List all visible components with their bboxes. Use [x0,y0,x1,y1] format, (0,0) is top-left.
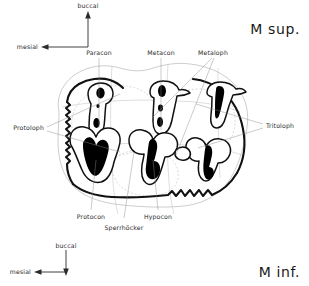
orientation-mesial-label-bottom: mesial [10,268,31,275]
orientation-buccal-label-top: buccal [77,2,98,9]
paracone-lower-dentine-lake [93,118,99,128]
orientation-buccal-label-bottom: buccal [55,242,76,249]
title-lower-molar: M inf. [259,264,300,280]
label-metaloph: Metaloph [198,49,228,57]
metacone-lower-dentine-lake [157,117,163,127]
label-hypocon: Hypocon [144,213,172,221]
title-upper-molar: M sup. [250,21,300,37]
paracone-dentine-lake [96,88,104,99]
label-protoloph: Protoloph [13,124,44,132]
orientation-mesial-label-top: mesial [17,43,38,50]
metacone-dentine-lake [158,85,166,97]
connecting-loph-enamel [175,147,190,160]
label-sperrhoecker: Sperrhöcker [104,224,143,232]
label-paracon: Paracon [86,49,112,56]
connecting-loph [175,147,190,160]
label-metacon: Metacon [147,49,175,56]
molar-occlusion-diagram: buccal mesial M sup. [0,0,309,286]
label-tritoloph: Tritoloph [265,122,294,130]
label-protocon: Protocon [77,213,105,220]
